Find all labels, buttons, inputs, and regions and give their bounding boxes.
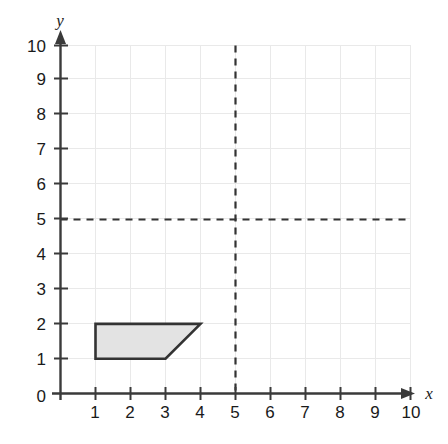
coordinate-plane-svg: 1 2 3 4 5 6 7 8 9 10 1 2 3 4 5 6 7 8 9 1… (0, 0, 448, 444)
y-tick-label-3: 3 (37, 280, 46, 299)
y-tick-label-9: 9 (37, 70, 46, 89)
x-tick-label-9: 9 (370, 403, 379, 422)
y-tick-label-6: 6 (37, 175, 46, 194)
x-tick-label-3: 3 (160, 403, 169, 422)
x-tick-label-8: 8 (335, 403, 344, 422)
origin-label: 0 (37, 387, 46, 406)
x-axis-label: x (424, 384, 433, 403)
y-tick-label-7: 7 (37, 140, 46, 159)
y-axis-label: y (54, 11, 64, 30)
x-tick-label-10: 10 (402, 403, 421, 422)
y-tick-label-2: 2 (37, 315, 46, 334)
x-tick-label-2: 2 (125, 403, 134, 422)
y-tick-label-5: 5 (37, 210, 46, 229)
x-tick-label-7: 7 (300, 403, 309, 422)
coordinate-plane-figure: 1 2 3 4 5 6 7 8 9 10 1 2 3 4 5 6 7 8 9 1… (0, 0, 448, 444)
y-tick-label-1: 1 (37, 350, 46, 369)
y-tick-label-10: 10 (27, 37, 46, 56)
x-tick-label-5: 5 (230, 403, 239, 422)
x-tick-label-4: 4 (195, 403, 204, 422)
y-tick-label-8: 8 (37, 105, 46, 124)
y-tick-label-4: 4 (37, 245, 46, 264)
figure-background (0, 0, 448, 444)
x-tick-label-6: 6 (265, 403, 274, 422)
x-tick-label-1: 1 (90, 403, 99, 422)
